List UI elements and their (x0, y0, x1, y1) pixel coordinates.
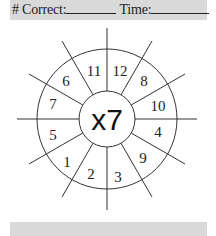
sector-number: 8 (140, 73, 148, 89)
sector-number: 10 (151, 98, 166, 114)
footer-bar (10, 222, 207, 236)
sector-number: 11 (87, 63, 101, 79)
sector-number: 7 (49, 96, 57, 112)
sector-number: 9 (139, 150, 147, 166)
sector-number: 12 (113, 63, 128, 79)
center-multiplier: x7 (91, 103, 123, 136)
sector-number: 3 (114, 169, 122, 185)
sector-number: 6 (62, 73, 70, 89)
sector-number: 2 (87, 166, 95, 182)
sector-number: 4 (154, 124, 162, 140)
spoke (121, 143, 152, 197)
sector-number: 1 (63, 154, 71, 170)
sector-number: 5 (49, 127, 57, 143)
multiplication-wheel: x7 12 8 10 4 9 3 2 1 5 7 6 11 (0, 0, 216, 236)
